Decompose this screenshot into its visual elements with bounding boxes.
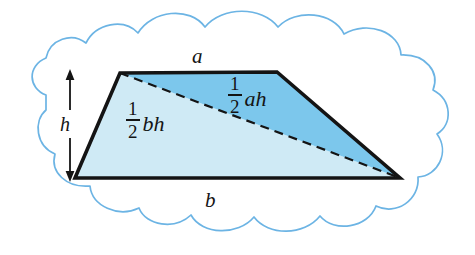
fraction-one-half-ah: 1 2: [228, 74, 242, 116]
fraction-numerator: 1: [126, 99, 140, 118]
fraction-one-half-bh: 1 2: [126, 99, 140, 141]
upper-triangle-area-tail: ah: [245, 86, 267, 116]
height-arrow-down-head: [66, 171, 75, 182]
upper-triangle-area-label: 1 2 ah: [228, 74, 267, 116]
fraction-denominator: 2: [126, 122, 140, 141]
height-label-h: h: [60, 114, 70, 134]
height-arrow-up-head: [66, 69, 75, 80]
figure-svg: [0, 0, 475, 255]
side-label-b: b: [205, 190, 216, 211]
figure-root: a b h 1 2 ah 1 2 bh: [0, 0, 475, 255]
fraction-numerator: 1: [228, 74, 242, 93]
lower-triangle-area-tail: bh: [143, 111, 165, 141]
fraction-denominator: 2: [228, 97, 242, 116]
lower-triangle-area-label: 1 2 bh: [126, 99, 165, 141]
side-label-a: a: [192, 46, 203, 67]
